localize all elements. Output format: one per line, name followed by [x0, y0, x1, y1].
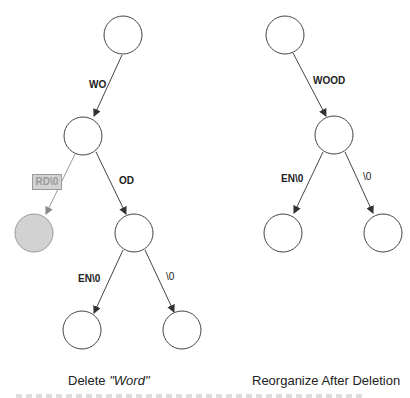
right-root-node	[266, 16, 304, 54]
edge-label-wood: WOOD	[313, 75, 345, 86]
edge-label-right-null: \0	[363, 171, 371, 182]
left-leaf-2	[163, 311, 201, 349]
right-node-1	[315, 116, 353, 154]
edge-label-en0: EN\0	[78, 273, 100, 284]
edge-label-null: \0	[166, 271, 174, 282]
left-node-1	[64, 117, 102, 155]
cutoff-text-strip	[0, 394, 410, 398]
trie-diagram	[0, 0, 410, 398]
edge-label-od: OD	[119, 175, 134, 186]
left-root-node	[104, 16, 142, 54]
left-leaf-1	[63, 311, 101, 349]
caption-delete-word: Delete "Word"	[68, 373, 150, 388]
right-leaf-1	[264, 214, 302, 252]
caption-delete-word-term: "Word"	[109, 373, 149, 388]
right-tree	[264, 16, 402, 252]
edge-right-null	[345, 152, 373, 213]
left-node-2	[115, 214, 153, 252]
caption-reorganize: Reorganize After Deletion	[252, 373, 400, 388]
edge-label-right-en0: EN\0	[281, 173, 303, 184]
right-leaf-2	[364, 214, 402, 252]
edge-label-rd-deleted: RD\0	[32, 174, 62, 190]
edge-label-wo: WO	[89, 79, 106, 90]
caption-delete-prefix: Delete	[68, 373, 109, 388]
deleted-node	[15, 214, 53, 252]
